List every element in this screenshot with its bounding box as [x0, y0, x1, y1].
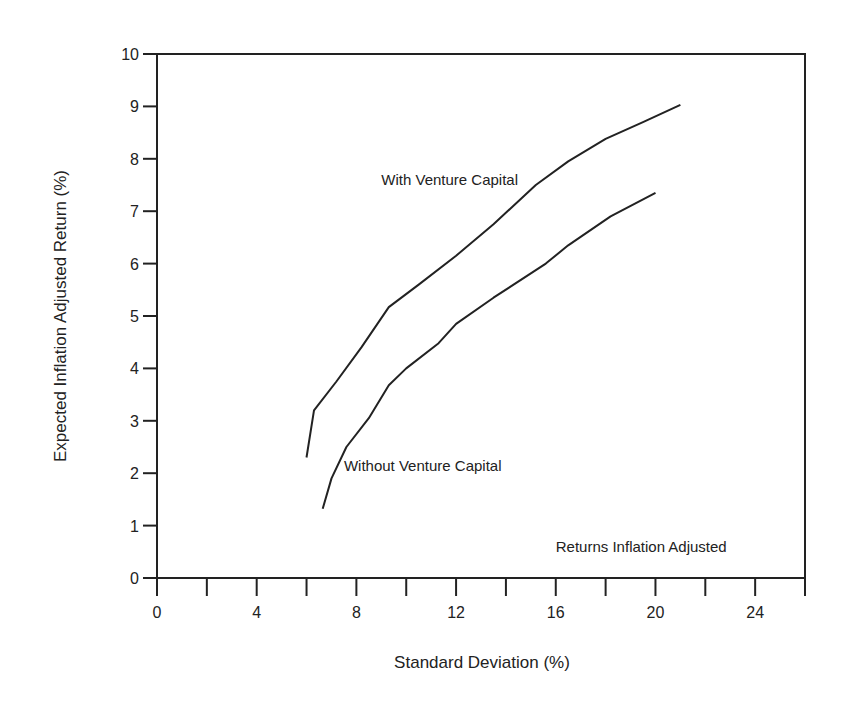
x-tick-label: 4: [252, 604, 261, 621]
y-tick-label: 8: [130, 151, 139, 168]
annotation-without-venture-capital: Without Venture Capital: [344, 457, 502, 474]
y-tick-label: 2: [130, 465, 139, 482]
x-tick-label: 0: [153, 604, 162, 621]
series-group: [307, 105, 681, 509]
x-tick-label: 24: [746, 604, 764, 621]
y-tick-label: 7: [130, 203, 139, 220]
annotations: With Venture CapitalWithout Venture Capi…: [344, 171, 727, 555]
y-axis-title: Expected Inflation Adjusted Return (%): [51, 170, 70, 462]
chart-canvas: 04812162024 012345678910 With Venture Ca…: [0, 0, 848, 709]
x-tick-label: 12: [447, 604, 465, 621]
y-tick-label: 4: [130, 360, 139, 377]
y-tick-label: 10: [121, 46, 139, 63]
plot-border: [157, 54, 805, 578]
x-tick-label: 16: [547, 604, 565, 621]
y-tick-label: 9: [130, 98, 139, 115]
x-axis-title: Standard Deviation (%): [394, 653, 570, 672]
y-tick-label: 1: [130, 518, 139, 535]
y-tick-label: 5: [130, 308, 139, 325]
annotation-returns-inflation-adjusted: Returns Inflation Adjusted: [556, 538, 727, 555]
x-tick-label: 20: [647, 604, 665, 621]
x-tick-label: 8: [352, 604, 361, 621]
with-venture-capital-line: [307, 105, 681, 458]
y-tick-label: 0: [130, 570, 139, 587]
y-tick-label: 3: [130, 413, 139, 430]
x-axis-ticks: 04812162024: [153, 578, 805, 621]
y-axis-ticks: 012345678910: [121, 46, 157, 587]
annotation-with-venture-capital: With Venture Capital: [381, 171, 518, 188]
plot-frame: [157, 54, 805, 578]
y-tick-label: 6: [130, 256, 139, 273]
